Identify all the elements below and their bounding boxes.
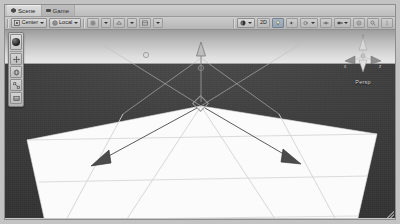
tool-rect[interactable] (10, 92, 22, 104)
pivot-center-icon (14, 20, 20, 26)
move-tool-icon (13, 56, 20, 63)
gizmo-z-label: z (379, 64, 382, 69)
move-gizmo-xz-plane-handle (143, 52, 148, 57)
view-2d-label: 2D (260, 20, 267, 26)
search-field[interactable] (367, 18, 379, 28)
magnet-icon (142, 20, 148, 26)
fx-icon (303, 20, 309, 26)
scene-audio-toggle[interactable] (286, 18, 298, 28)
scene-tool-palette (8, 32, 24, 107)
shaded-sphere-icon (240, 20, 246, 26)
kebab-menu-icon (384, 20, 390, 26)
tool-rotate[interactable] (10, 66, 22, 78)
eye-icon (323, 20, 329, 26)
fx-dropdown[interactable] (300, 18, 318, 28)
scene-view-toolbar: Center Local (5, 17, 395, 30)
window-tabstrip: Scene Game (5, 5, 395, 17)
scene-viewport[interactable]: y x z Persp (5, 30, 395, 218)
orientation-gizmo-axes: x z (337, 34, 389, 78)
toolbar-separator (233, 19, 235, 28)
chevron-down-icon (344, 22, 348, 24)
grid-visibility-toggle[interactable] (113, 18, 125, 28)
gizmo-axis-lines (355, 50, 371, 60)
tab-game[interactable]: Game (42, 5, 76, 16)
scale-tool-icon (13, 82, 20, 89)
tool-view-sphere[interactable] (10, 34, 22, 50)
speaker-icon (289, 20, 295, 26)
grid-snap-toggle[interactable] (87, 18, 99, 28)
pivot-mode-label: Center (22, 20, 39, 26)
gizmo-z-cone[interactable] (371, 56, 381, 64)
grid-visibility-icon (116, 20, 122, 26)
grid-icon (90, 20, 96, 26)
toolbar-separator (83, 19, 85, 28)
resize-grip[interactable] (387, 211, 394, 218)
tab-scene[interactable]: Scene (7, 5, 42, 16)
snap-increment-toggle[interactable] (139, 18, 151, 28)
lightbulb-icon (275, 20, 281, 26)
scene-view-window: Scene Game Center (4, 4, 396, 220)
gizmos-toggle[interactable] (353, 18, 365, 28)
search-icon (370, 20, 376, 26)
game-icon (46, 8, 51, 13)
unity-editor-screenshot: Scene Game Center (0, 0, 400, 224)
scene-lighting-toggle[interactable] (272, 18, 284, 28)
view-2d-toggle[interactable]: 2D (257, 18, 270, 28)
pivot-rotation-dropdown[interactable]: Local (49, 18, 81, 28)
scene-camera-dropdown[interactable] (334, 18, 352, 28)
camera-icon (337, 20, 343, 26)
gizmo-x-cone[interactable] (345, 56, 355, 64)
draw-mode-dropdown[interactable] (237, 18, 255, 28)
tab-game-label: Game (53, 8, 70, 14)
chevron-down-icon (311, 22, 315, 24)
chevron-down-icon (130, 22, 134, 24)
tool-move[interactable] (10, 53, 22, 65)
grid-snap-dropdown[interactable] (101, 18, 111, 28)
scene-orientation-gizmo[interactable]: y x z Persp (337, 34, 389, 84)
chevron-down-icon (74, 22, 78, 24)
toolbar-separator (7, 19, 9, 28)
toolbar-right-cluster: 2D (233, 18, 393, 28)
snap-increment-dropdown[interactable] (153, 18, 163, 28)
chevron-down-icon (156, 22, 160, 24)
grid-visibility-dropdown[interactable] (127, 18, 137, 28)
scene-icon (11, 8, 16, 13)
chevron-down-icon (248, 22, 252, 24)
orientation-gizmo-perspective-label[interactable]: Persp (337, 79, 389, 85)
chevron-down-icon (40, 22, 44, 24)
rect-tool-icon (13, 95, 20, 102)
gizmo-neg-y-cone[interactable] (359, 60, 367, 72)
gizmo-y-cone[interactable] (359, 38, 367, 50)
ground-plane (27, 106, 377, 218)
pivot-mode-dropdown[interactable]: Center (11, 18, 47, 28)
move-gizmo-y-handle (197, 42, 206, 56)
chevron-down-icon (104, 22, 108, 24)
pivot-rotation-label: Local (59, 20, 72, 26)
tab-scene-label: Scene (18, 8, 36, 14)
orientation-gizmo-top-label: y (337, 32, 389, 38)
tool-scale[interactable] (10, 79, 22, 91)
gizmos-icon (356, 20, 362, 26)
rotate-tool-icon (13, 69, 20, 76)
gizmo-x-label: x (344, 64, 347, 69)
tool-palette-divider (10, 51, 22, 52)
sphere-icon (12, 38, 20, 46)
handle-local-icon (52, 20, 58, 26)
hidden-objects-toggle[interactable] (320, 18, 332, 28)
view-options-menu[interactable] (381, 18, 393, 28)
